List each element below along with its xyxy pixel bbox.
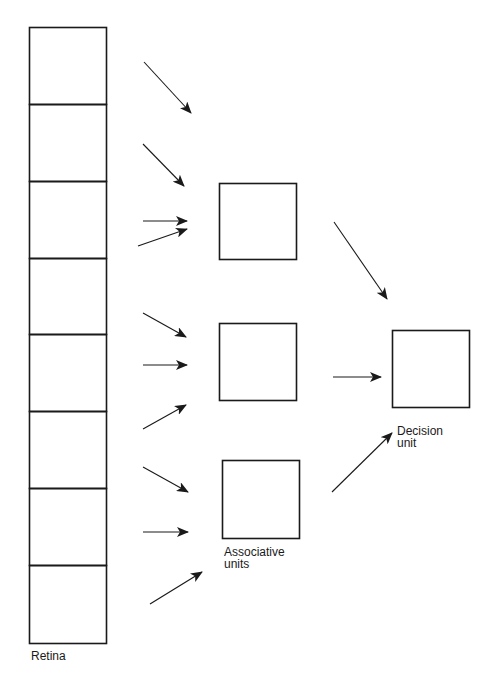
associative-units — [220, 184, 300, 539]
associative-unit-3 — [223, 461, 300, 539]
retina-cell-5 — [30, 335, 107, 412]
decision-unit-box — [393, 331, 470, 408]
arrow-icon-11 — [334, 222, 387, 299]
associative-label-line2: units — [224, 558, 285, 570]
arrow-icon-5 — [143, 313, 186, 337]
arrow-icon-4 — [138, 229, 187, 246]
retina-cell-6 — [30, 412, 107, 489]
arrow-icon-13 — [332, 433, 392, 492]
retina-cell-2 — [30, 105, 107, 182]
retina-cell-3 — [30, 182, 107, 259]
retina-cell-1 — [30, 28, 107, 105]
arrow-icon-7 — [143, 405, 186, 429]
decision-unit-label: Decision unit — [397, 425, 443, 449]
associative-units-label: Associative units — [224, 546, 285, 570]
retina-cell-4 — [30, 259, 107, 335]
decision-unit — [393, 331, 470, 408]
associative-unit-1 — [220, 184, 297, 260]
arrow-icon-1 — [144, 62, 191, 113]
connections — [138, 62, 392, 604]
retina-cell-7 — [30, 489, 107, 566]
arrow-icon-2 — [143, 144, 184, 186]
arrow-icon-10 — [150, 572, 202, 604]
associative-unit-2 — [220, 324, 297, 401]
retina — [30, 28, 107, 644]
decision-label-line2: unit — [397, 437, 443, 449]
retina-label: Retina — [31, 650, 66, 662]
perceptron-diagram — [0, 0, 494, 682]
retina-label-text: Retina — [31, 650, 66, 662]
retina-cell-8 — [30, 566, 107, 644]
arrow-icon-8 — [143, 467, 188, 492]
